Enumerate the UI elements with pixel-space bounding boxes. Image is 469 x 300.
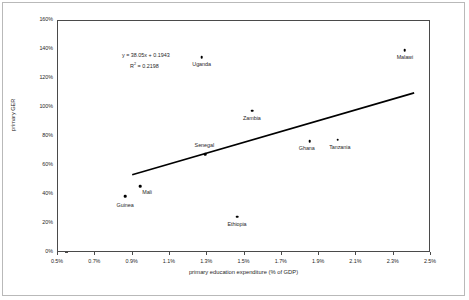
y-axis-tick-label: 20%	[42, 220, 53, 225]
data-point-marker	[204, 153, 207, 156]
data-point-marker	[404, 49, 407, 52]
y-axis-label: primary GER	[11, 75, 17, 155]
data-point-marker	[336, 139, 339, 142]
data-point-marker	[236, 215, 239, 218]
trendline-svg	[58, 21, 429, 251]
x-axis-tick-label: 0.7%	[88, 259, 100, 264]
x-axis-tick-mark	[206, 252, 207, 255]
data-point-marker	[200, 56, 203, 59]
regression-trendline	[132, 93, 414, 175]
data-point-label: Malawi	[397, 55, 413, 60]
data-point-label: Tanzania	[329, 145, 350, 150]
x-axis-tick-label: 1.7%	[275, 259, 287, 264]
data-point-label: Guinea	[117, 203, 134, 208]
plot-inner: y = 38.05x + 0.1943 R2 = 0.2198 GuineaMa…	[58, 21, 429, 251]
x-axis-tick-label: 2.1%	[349, 259, 361, 264]
y-axis-tick-label: 160%	[39, 17, 53, 22]
data-point-label: Zambia	[243, 116, 261, 121]
y-axis-tick-label: 100%	[39, 104, 53, 109]
data-point-marker	[251, 110, 254, 113]
y-axis-tick-label: 60%	[42, 162, 53, 167]
x-axis-tick-label: 2.5%	[424, 259, 436, 264]
x-axis-tick-mark	[132, 252, 133, 255]
data-point-marker	[139, 185, 142, 188]
y-axis-tick-label: 40%	[42, 191, 53, 196]
data-point-marker	[124, 195, 127, 198]
y-axis-tick-label: 0%	[45, 249, 53, 254]
x-axis-tick-label: 1.1%	[163, 259, 175, 264]
y-axis-ticks: 0%20%40%60%80%100%120%140%160%	[12, 20, 53, 252]
scatter-chart-figure: 0%20%40%60%80%100%120%140%160% primary G…	[0, 0, 469, 300]
data-point-label: Senegal	[195, 143, 214, 148]
x-axis-tick-mark	[355, 252, 356, 255]
x-axis-tick-mark	[94, 252, 95, 255]
x-axis-tick-label: 0.9%	[126, 259, 138, 264]
y-axis-tick-label: 120%	[39, 75, 53, 80]
x-axis-tick-mark	[318, 252, 319, 255]
x-axis-tick-mark	[430, 252, 431, 255]
r-squared-value: = 0.2198	[136, 62, 159, 68]
x-axis-tick-label: 1.5%	[237, 259, 249, 264]
x-axis-tick-label: 0.5%	[51, 259, 63, 264]
regression-equation-annotation: y = 38.05x + 0.1943 R2 = 0.2198	[122, 51, 170, 70]
data-point-label: Ethiopia	[227, 222, 246, 227]
data-point-label: Mali	[142, 190, 152, 195]
data-point-label: Uganda	[192, 62, 211, 67]
data-point-label: Ghana	[299, 146, 315, 151]
x-axis-label: primary education expenditure (% of GDP)	[57, 270, 430, 276]
x-axis-tick-mark	[169, 252, 170, 255]
data-point-marker	[308, 140, 311, 143]
x-axis-tick-label: 2.3%	[387, 259, 399, 264]
x-axis-tick-mark	[281, 252, 282, 255]
x-axis-tick-label: 1.3%	[200, 259, 212, 264]
y-axis-tick-label: 140%	[39, 46, 53, 51]
x-axis-tick-mark	[57, 252, 58, 255]
regression-equation-text: y = 38.05x + 0.1943	[122, 51, 170, 60]
plot-area: y = 38.05x + 0.1943 R2 = 0.2198 GuineaMa…	[57, 20, 430, 252]
x-axis-tick-mark	[393, 252, 394, 255]
x-axis-tick-label: 1.9%	[312, 259, 324, 264]
y-axis-tick-label: 80%	[42, 133, 53, 138]
x-axis-tick-mark	[244, 252, 245, 255]
r-squared-text: R2 = 0.2198	[122, 60, 170, 70]
